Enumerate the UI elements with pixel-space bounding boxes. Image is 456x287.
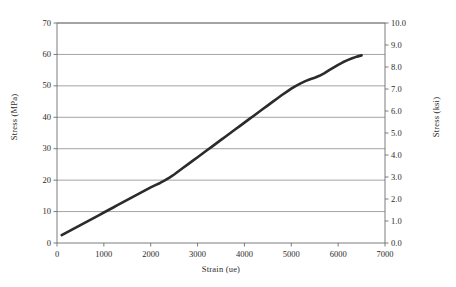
plot-canvas xyxy=(0,0,456,287)
x-tick-label: 2000 xyxy=(128,249,174,259)
y-right-tick-label: 10.0 xyxy=(391,18,431,28)
y-left-tick-label: 20 xyxy=(11,175,51,185)
y-right-tick-label: 5.0 xyxy=(391,128,431,138)
y-right-tick-label: 3.0 xyxy=(391,172,431,182)
y-left-tick-label: 0 xyxy=(11,238,51,248)
y-right-axis-title: Stress (ksi) xyxy=(431,77,441,157)
x-tick-label: 4000 xyxy=(221,249,267,259)
y-left-tick-label: 70 xyxy=(11,18,51,28)
gridlines xyxy=(57,23,385,212)
y-left-axis-ticks xyxy=(54,23,58,243)
y-right-axis-ticks xyxy=(385,23,389,243)
x-tick-label: 0 xyxy=(34,249,80,259)
y-right-tick-label: 1.0 xyxy=(391,216,431,226)
y-right-tick-label: 2.0 xyxy=(391,194,431,204)
y-right-tick-label: 4.0 xyxy=(391,150,431,160)
data-series-line xyxy=(62,55,362,235)
x-tick-label: 5000 xyxy=(268,249,314,259)
data-series-group xyxy=(62,55,362,235)
x-axis-title: Strain (ue) xyxy=(57,264,385,274)
y-right-tick-label: 8.0 xyxy=(391,62,431,72)
y-left-tick-label: 10 xyxy=(11,206,51,216)
y-right-tick-label: 9.0 xyxy=(391,40,431,50)
y-left-tick-label: 60 xyxy=(11,49,51,59)
y-right-tick-label: 0.0 xyxy=(391,238,431,248)
x-tick-label: 3000 xyxy=(175,249,221,259)
x-tick-label: 7000 xyxy=(362,249,408,259)
stress-strain-chart: 010203040506070 0.01.02.03.04.05.06.07.0… xyxy=(0,0,456,287)
x-axis-ticks xyxy=(57,243,385,247)
x-tick-label: 6000 xyxy=(315,249,361,259)
y-right-tick-label: 6.0 xyxy=(391,106,431,116)
y-right-tick-label: 7.0 xyxy=(391,84,431,94)
x-tick-label: 1000 xyxy=(81,249,127,259)
y-left-axis-title: Stress (MPa) xyxy=(9,77,19,157)
